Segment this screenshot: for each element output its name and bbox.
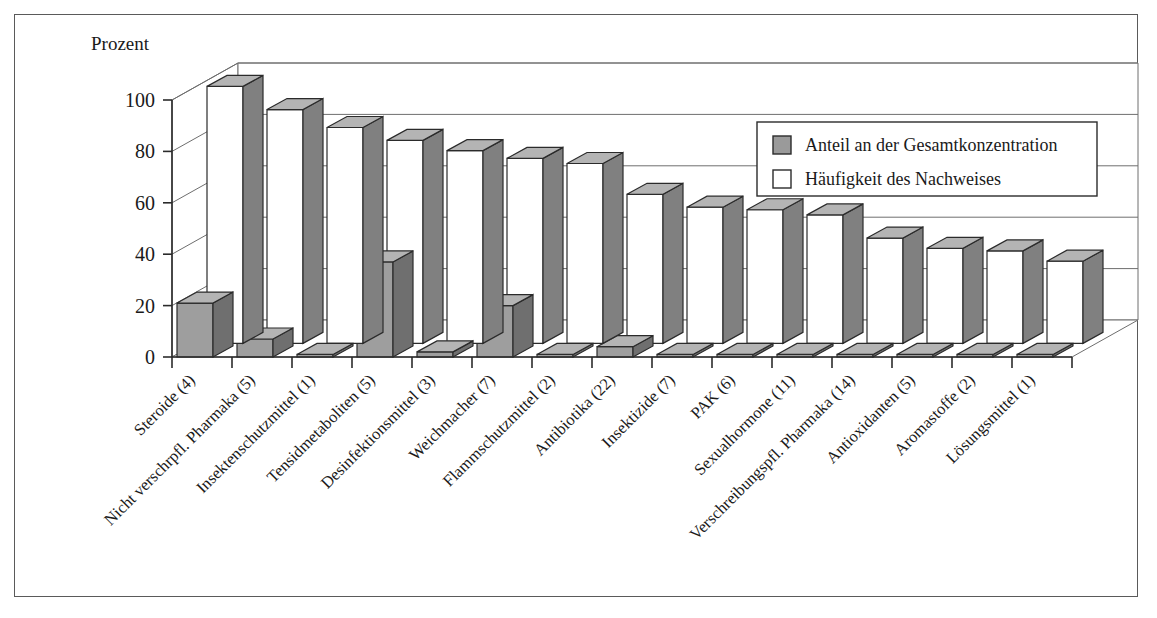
bar-side — [663, 183, 683, 343]
bar-side — [1083, 250, 1103, 343]
bar-side — [363, 117, 383, 344]
bar-side — [903, 227, 923, 343]
chart-stage: 020406080100ProzentSteroide (4)Nicht ver… — [0, 0, 1157, 618]
legend-label-0: Anteil an der Gesamtkonzentration — [805, 135, 1057, 155]
bar-chart-3d: 020406080100ProzentSteroide (4)Nicht ver… — [0, 0, 1157, 618]
x-axis-label-2: Insektenschutzmittel (1) — [192, 370, 319, 497]
bar-face — [567, 164, 603, 344]
y-tick-label-100: 100 — [125, 89, 155, 111]
bar-side — [843, 204, 863, 344]
bar-side — [783, 199, 803, 344]
bar-0-anteil — [177, 292, 233, 357]
bar-face — [807, 215, 843, 344]
legend-swatch-1 — [773, 170, 791, 188]
bar-side — [483, 140, 503, 344]
bar-11-haeufigkeit — [867, 227, 923, 343]
bar-side — [423, 129, 443, 343]
bar-face — [747, 210, 783, 344]
x-axis-label-6: Flammschutzmittel (2) — [439, 370, 559, 490]
bar-12-haeufigkeit — [927, 237, 983, 343]
bar-face — [597, 347, 633, 357]
bar-face — [327, 128, 363, 344]
bar-face — [267, 110, 303, 344]
y-tick-label-20: 20 — [135, 295, 155, 317]
bar-side — [963, 237, 983, 343]
bar-9-haeufigkeit — [747, 199, 803, 344]
bar-side — [543, 147, 563, 343]
x-axis-label-9: PAK (6) — [687, 370, 739, 422]
bar-face — [927, 248, 963, 343]
x-axis-label-3: Tensidmetaboliten (5) — [263, 370, 379, 486]
legend-swatch-0 — [773, 136, 791, 154]
y-axis-title: Prozent — [91, 33, 150, 54]
bar-13-haeufigkeit — [987, 240, 1043, 344]
bar-face — [867, 238, 903, 343]
x-axis-label-10: Sexualhormone (11) — [690, 370, 799, 479]
y-tick-label-60: 60 — [135, 192, 155, 214]
bar-face — [627, 194, 663, 343]
y-tick-label-0: 0 — [145, 346, 155, 368]
bar-1-haeufigkeit — [267, 99, 323, 344]
bar-side — [393, 251, 413, 357]
bar-2-haeufigkeit — [327, 117, 383, 344]
bar-side — [243, 75, 263, 343]
bar-side — [603, 153, 623, 344]
bar-face — [447, 151, 483, 344]
bar-face — [1047, 261, 1083, 343]
legend-label-1: Häufigkeit des Nachweises — [805, 169, 1001, 189]
y-tick-label-80: 80 — [135, 140, 155, 162]
x-axis-label-4: Desinfektionsmittel (3) — [317, 370, 439, 492]
bar-face — [687, 207, 723, 343]
bar-14-haeufigkeit — [1047, 250, 1103, 343]
bar-6-haeufigkeit — [567, 153, 623, 344]
bar-10-haeufigkeit — [807, 204, 863, 344]
y-tick-label-40: 40 — [135, 243, 155, 265]
bar-7-haeufigkeit — [627, 183, 683, 343]
bar-side — [723, 196, 743, 343]
bar-side — [1023, 240, 1043, 344]
bar-face — [177, 303, 213, 357]
bar-face — [987, 251, 1023, 344]
bar-8-haeufigkeit — [687, 196, 743, 343]
bar-4-haeufigkeit — [447, 140, 503, 344]
bar-side — [303, 99, 323, 344]
